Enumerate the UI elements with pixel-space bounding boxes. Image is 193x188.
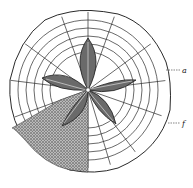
label-a: a <box>182 67 187 75</box>
apical-disc <box>86 88 90 92</box>
sand-dollar-illustration <box>0 0 193 188</box>
label-f: f <box>182 120 185 128</box>
